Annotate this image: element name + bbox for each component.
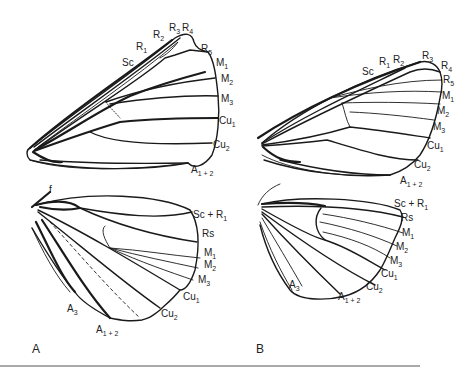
vein-label-sc-r1: Sc + R1 [193, 209, 227, 222]
vein-label-cu2: Cu2 [366, 281, 383, 294]
vein-label-a1-2: A1 + 2 [400, 175, 423, 188]
vein-label-cu2: Cu2 [414, 159, 431, 172]
vein-label-a3: A3 [67, 303, 78, 316]
vein-label-cu1: Cu1 [427, 140, 444, 153]
hindwing-b-outline [260, 199, 402, 299]
vein-label-m3: M3 [198, 274, 210, 287]
vein-label-m3: M3 [433, 121, 445, 134]
vein-label-r2: R2 [393, 54, 404, 67]
vein-label-rs: Rs [401, 212, 413, 223]
vein-label-sc: Sc [122, 57, 134, 68]
vein-labels: ScR1R2R3R4R5M1M2M3Cu1Cu2A1 + 2fSc + R1Rs… [49, 22, 454, 337]
vein-label-r5: R5 [443, 74, 454, 87]
vein-label-rs: Rs [202, 228, 214, 239]
vein-label-cu1: Cu1 [219, 115, 236, 128]
panel-b-hindwing [258, 184, 403, 299]
vein-label-cu2: Cu2 [161, 308, 178, 321]
vein-label-r4: R4 [441, 60, 452, 73]
vein-label-a1-2: A1 + 2 [191, 164, 214, 177]
vein-label-m1: M1 [216, 57, 228, 70]
vein-label-f: f [49, 184, 52, 195]
vein-label-cu1: Cu1 [381, 268, 398, 281]
vein-label-r1: R1 [379, 56, 390, 69]
vein-label-cu1: Cu1 [183, 291, 200, 304]
vein-label-r2: R2 [153, 29, 164, 42]
vein-label-a1-2: A1 + 2 [96, 324, 119, 337]
vein-label-m1: M1 [402, 227, 414, 240]
vein-label-m3: M3 [390, 255, 402, 268]
vein-label-r1: R1 [136, 41, 147, 54]
wing-venation-figure: ScR1R2R3R4R5M1M2M3Cu1Cu2A1 + 2fSc + R1Rs… [0, 0, 474, 368]
panel-a-forewing [27, 34, 219, 169]
vein-label-m2: M2 [396, 241, 408, 254]
vein-label-m2: M2 [204, 259, 216, 272]
vein-label-r4: R4 [182, 22, 193, 35]
vein-label-m3: M3 [221, 93, 233, 106]
vein-label-r5: R5 [201, 43, 212, 56]
vein-label-r3: R3 [169, 22, 180, 35]
vein-label-a1-2: A1 + 2 [338, 291, 361, 304]
forewing-a-outline [27, 34, 219, 168]
panel-a-hindwing [32, 192, 200, 321]
vein-label-sc: Sc [362, 66, 374, 77]
vein-label-m2: M2 [437, 105, 449, 118]
vein-label-cu2: Cu2 [213, 139, 230, 152]
panel-label-b: B [256, 342, 264, 356]
vein-label-m1: M1 [442, 90, 454, 103]
panel-label-a: A [32, 342, 40, 356]
vein-label-m2: M2 [221, 73, 233, 86]
